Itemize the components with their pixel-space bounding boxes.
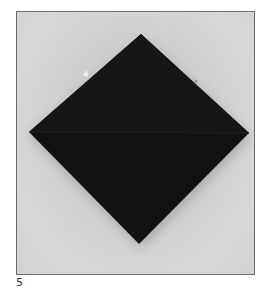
paper-edge-highlight-left: [83, 70, 88, 77]
folded-paper-diamond: [17, 12, 255, 275]
photo-frame: [16, 11, 255, 275]
step-number-label: 5: [16, 276, 23, 289]
diamond-upper-half: [29, 34, 249, 133]
